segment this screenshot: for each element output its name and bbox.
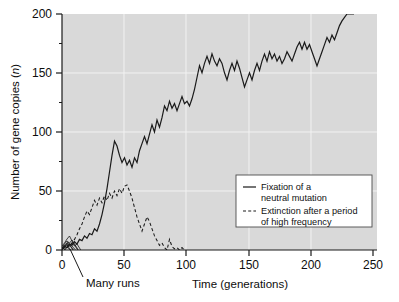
y-tick-label-50: 50 — [39, 184, 53, 198]
x-tick-label-50: 50 — [117, 258, 131, 272]
x-axis-ticks — [62, 250, 373, 256]
x-tick-label-100: 100 — [176, 258, 196, 272]
y-tick-label-200: 200 — [32, 7, 52, 21]
many-runs-leader-line — [70, 249, 83, 277]
gene-copies-line-chart: 200 150 100 50 0 0 50 100 150 200 250 Ti… — [0, 0, 399, 302]
y-tick-label-150: 150 — [32, 66, 52, 80]
x-tick-label-0: 0 — [59, 258, 66, 272]
y-tick-label-100: 100 — [32, 125, 52, 139]
legend[interactable]: Fixation of a neutral mutation Extinctio… — [236, 175, 372, 227]
y-axis-title-group: Number of gene copies (n) — [9, 64, 21, 200]
legend-label-extinction-line2: of high frequency — [261, 217, 332, 227]
y-tick-label-0: 0 — [45, 243, 52, 257]
y-axis-title: Number of gene copies (n) — [9, 64, 21, 200]
figure-container: 200 150 100 50 0 0 50 100 150 200 250 Ti… — [0, 0, 399, 302]
x-tick-label-150: 150 — [239, 258, 259, 272]
x-tick-label-250: 250 — [363, 258, 383, 272]
legend-label-fixation-line1: Fixation of a — [261, 182, 312, 192]
x-tick-label-200: 200 — [301, 258, 321, 272]
many-runs-label: Many runs — [86, 277, 140, 289]
y-axis-ticks — [56, 14, 62, 250]
x-axis-title: Time (generations) — [192, 278, 288, 290]
legend-label-fixation-line2: neutral mutation — [261, 193, 327, 203]
legend-label-extinction-line1: Extinction after a period — [261, 206, 358, 216]
